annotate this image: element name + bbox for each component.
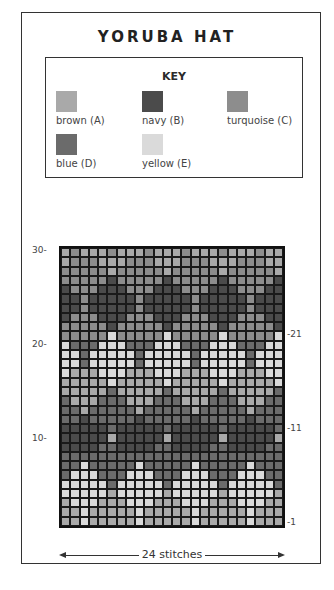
stitch-cell <box>209 294 218 303</box>
row-label-1: -1 <box>287 517 296 527</box>
stitch-cell <box>126 313 135 322</box>
stitch-cell <box>274 331 283 340</box>
stitch-cell <box>89 257 98 266</box>
stitch-cell <box>163 304 172 313</box>
stitch-cell <box>126 304 135 313</box>
stitch-cell <box>218 368 227 377</box>
stitch-cell <box>126 387 135 396</box>
stitch-cell <box>181 489 190 498</box>
stitch-cell <box>255 387 264 396</box>
stitch-cell <box>98 424 107 433</box>
stitch-cell <box>163 433 172 442</box>
stitch-cell <box>246 257 255 266</box>
stitch-cell <box>117 248 126 257</box>
stitch-cell <box>80 248 89 257</box>
stitch-cell <box>265 406 274 415</box>
stitch-cell <box>255 396 264 405</box>
stitch-cell <box>70 285 79 294</box>
stitch-cell <box>135 276 144 285</box>
stitch-cell <box>107 452 116 461</box>
stitch-cell <box>80 304 89 313</box>
stitch-cell <box>107 378 116 387</box>
stitch-cell <box>89 359 98 368</box>
stitch-cell <box>255 378 264 387</box>
stitch-cell <box>191 322 200 331</box>
stitch-cell <box>209 368 218 377</box>
stitch-cell <box>181 359 190 368</box>
stitch-cell <box>172 461 181 470</box>
stitch-cell <box>117 415 126 424</box>
stitch-cell <box>135 424 144 433</box>
key-label-blue: blue (D) <box>56 158 96 169</box>
stitch-cell <box>61 341 70 350</box>
stitch-cell <box>191 304 200 313</box>
stitch-cell <box>200 406 209 415</box>
stitch-cell <box>274 359 283 368</box>
stitch-cell <box>135 304 144 313</box>
stitch-cell <box>274 396 283 405</box>
stitch-cell <box>163 248 172 257</box>
stitch-cell <box>80 443 89 452</box>
stitch-cell <box>126 267 135 276</box>
stitch-cell <box>246 322 255 331</box>
stitch-cell <box>154 322 163 331</box>
stitch-cell <box>209 341 218 350</box>
stitch-cell <box>154 406 163 415</box>
stitch-cell <box>154 267 163 276</box>
stitch-cell <box>61 424 70 433</box>
stitch-cell <box>228 480 237 489</box>
stitch-cell <box>89 443 98 452</box>
stitch-cell <box>218 443 227 452</box>
key-item-blue: blue (D) <box>56 134 96 169</box>
stitch-cell <box>246 433 255 442</box>
stitch-cell <box>135 396 144 405</box>
stitch-cell <box>154 378 163 387</box>
stitch-cell <box>144 415 153 424</box>
stitch-cell <box>80 285 89 294</box>
stitch-cell <box>218 313 227 322</box>
stitch-cell <box>135 313 144 322</box>
stitch-cell <box>144 433 153 442</box>
stitch-cell <box>274 480 283 489</box>
stitch-cell <box>218 387 227 396</box>
stitch-cell <box>181 294 190 303</box>
swatch-yellow <box>142 134 163 155</box>
stitch-cell <box>209 248 218 257</box>
stitch-cell <box>135 359 144 368</box>
stitch-cell <box>98 396 107 405</box>
stitch-cell <box>246 489 255 498</box>
stitch-cell <box>228 406 237 415</box>
stitch-cell <box>98 294 107 303</box>
stitch-cell <box>181 387 190 396</box>
stitch-cell <box>98 341 107 350</box>
key-title: KEY <box>46 70 302 83</box>
stitch-cell <box>172 415 181 424</box>
stitch-cell <box>228 276 237 285</box>
stitch-cell <box>237 415 246 424</box>
stitch-cell <box>126 406 135 415</box>
stitch-cell <box>117 350 126 359</box>
stitch-cell <box>144 294 153 303</box>
stitch-cell <box>70 267 79 276</box>
stitch-cell <box>154 359 163 368</box>
stitch-cell <box>117 498 126 507</box>
stitch-cell <box>172 359 181 368</box>
stitch-cell <box>117 378 126 387</box>
stitch-cell <box>98 378 107 387</box>
stitch-cell <box>61 267 70 276</box>
stitch-cell <box>89 396 98 405</box>
stitch-cell <box>98 257 107 266</box>
row-label-21: -21 <box>287 329 302 339</box>
stitch-cell <box>218 470 227 479</box>
stitch-cell <box>98 517 107 526</box>
stitch-cell <box>200 285 209 294</box>
stitch-cell <box>163 424 172 433</box>
stitch-cell <box>107 276 116 285</box>
stitch-cell <box>265 350 274 359</box>
stitch-cell <box>154 507 163 516</box>
stitch-cell <box>200 350 209 359</box>
stitch-cell <box>61 415 70 424</box>
stitch-cell <box>265 498 274 507</box>
stitch-cell <box>135 406 144 415</box>
stitch-cell <box>237 498 246 507</box>
